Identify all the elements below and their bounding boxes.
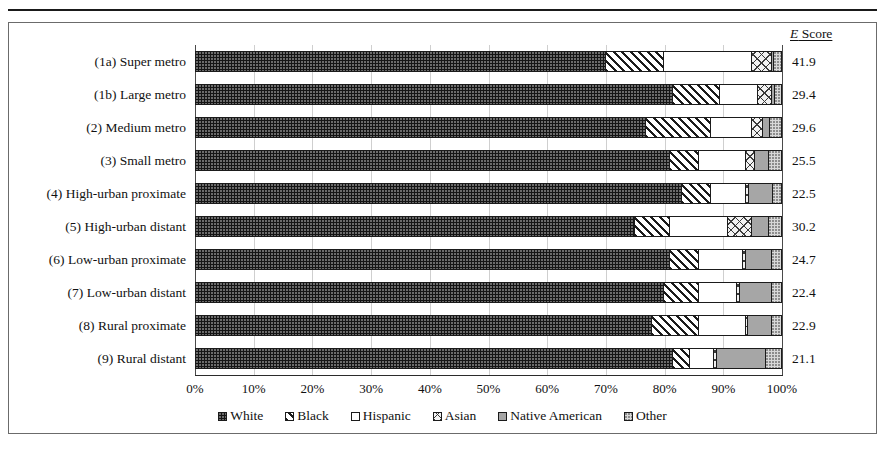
bar-segment-black[interactable] (682, 184, 711, 203)
category-label: (1b) Large metro (0, 87, 186, 103)
bar-segment-hispanic[interactable] (664, 52, 752, 71)
stacked-bar[interactable] (195, 282, 782, 303)
bar-segment-white[interactable] (196, 316, 652, 335)
bar-segment-native-american[interactable] (717, 349, 767, 368)
bar-segment-hispanic[interactable] (670, 217, 729, 236)
bar-segment-black[interactable] (635, 217, 670, 236)
x-tick-label: 30% (341, 381, 401, 397)
legend-item-black[interactable]: Black (285, 408, 329, 424)
bar-row (195, 276, 782, 309)
bar-segment-black[interactable] (646, 118, 710, 137)
bar-segment-other[interactable] (774, 52, 781, 71)
x-tick-label: 100% (752, 381, 812, 397)
bar-segment-other[interactable] (772, 316, 781, 335)
bar-segment-black[interactable] (664, 283, 699, 302)
legend-item-hispanic[interactable]: Hispanic (351, 408, 411, 424)
bar-segment-other[interactable] (769, 217, 781, 236)
bar-segment-other[interactable] (769, 151, 781, 170)
bar-segment-hispanic[interactable] (699, 316, 746, 335)
escore-value: 22.9 (792, 318, 852, 334)
bar-segment-white[interactable] (196, 217, 635, 236)
category-label: (1a) Super metro (0, 54, 186, 70)
plot-right-border (782, 45, 783, 375)
bar-segment-other[interactable] (772, 250, 781, 269)
bar-segment-hispanic[interactable] (720, 85, 758, 104)
bar-segment-black[interactable] (606, 52, 665, 71)
escore-value: 29.4 (792, 87, 852, 103)
legend-item-asian[interactable]: Asian (433, 408, 477, 424)
bar-segment-native-american[interactable] (746, 250, 772, 269)
bar-segment-white[interactable] (196, 151, 670, 170)
legend-item-other[interactable]: Other (624, 408, 667, 424)
bar-segment-black[interactable] (652, 316, 699, 335)
category-label: (2) Medium metro (0, 120, 186, 136)
bar-segment-other[interactable] (773, 184, 781, 203)
bar-segment-asian[interactable] (746, 151, 755, 170)
bar-segment-other[interactable] (770, 118, 781, 137)
bar-segment-asian[interactable] (752, 52, 772, 71)
bar-segment-white[interactable] (196, 184, 682, 203)
legend-label: Native American (510, 408, 602, 424)
category-label: (9) Rural distant (0, 351, 186, 367)
bar-segment-white[interactable] (196, 283, 664, 302)
bar-segment-hispanic[interactable] (711, 184, 746, 203)
escore-value: 22.4 (792, 285, 852, 301)
stacked-bar[interactable] (195, 84, 782, 105)
bar-segment-hispanic[interactable] (699, 151, 746, 170)
bar-segment-native-american[interactable] (740, 283, 772, 302)
escore-value: 30.2 (792, 219, 852, 235)
chart-legend: WhiteBlackHispanicAsianNative AmericanOt… (8, 408, 877, 424)
legend-label: Other (636, 408, 667, 424)
x-tick-label: 60% (517, 381, 577, 397)
bar-segment-white[interactable] (196, 250, 670, 269)
bar-segment-asian[interactable] (758, 85, 773, 104)
stacked-bar[interactable] (195, 216, 782, 237)
legend-swatch-icon (624, 412, 633, 421)
bar-segment-hispanic[interactable] (690, 349, 713, 368)
bar-segment-white[interactable] (196, 349, 673, 368)
legend-item-white[interactable]: White (218, 408, 263, 424)
bar-segment-native-american[interactable] (748, 316, 771, 335)
x-tick-label: 10% (224, 381, 284, 397)
bar-segment-black[interactable] (670, 250, 699, 269)
bar-row (195, 210, 782, 243)
stacked-bar[interactable] (195, 183, 782, 204)
bar-segment-other[interactable] (775, 85, 781, 104)
escore-header-word: Score (798, 26, 832, 41)
stacked-bar[interactable] (195, 315, 782, 336)
bar-segment-white[interactable] (196, 118, 646, 137)
stacked-bar[interactable] (195, 117, 782, 138)
stacked-bar[interactable] (195, 150, 782, 171)
legend-swatch-icon (285, 412, 294, 421)
x-axis-line (195, 375, 783, 376)
bar-segment-hispanic[interactable] (711, 118, 752, 137)
stacked-bar[interactable] (195, 249, 782, 270)
legend-label: Hispanic (363, 408, 411, 424)
bar-segment-native-american[interactable] (763, 118, 770, 137)
legend-swatch-icon (498, 412, 507, 421)
bar-segment-native-american[interactable] (749, 184, 772, 203)
bar-segment-native-american[interactable] (755, 151, 770, 170)
bar-segment-black[interactable] (673, 349, 691, 368)
bar-segment-native-american[interactable] (752, 217, 770, 236)
legend-item-native-american[interactable]: Native American (498, 408, 602, 424)
legend-label: White (230, 408, 263, 424)
bar-segment-asian[interactable] (752, 118, 764, 137)
stacked-bar[interactable] (195, 51, 782, 72)
legend-swatch-icon (218, 412, 227, 421)
header-rule (8, 9, 877, 11)
bar-segment-black[interactable] (670, 151, 699, 170)
bar-segment-asian[interactable] (728, 217, 751, 236)
x-tick-label: 0% (165, 381, 225, 397)
bar-segment-white[interactable] (196, 52, 606, 71)
bar-segment-hispanic[interactable] (699, 250, 743, 269)
escore-value: 25.5 (792, 153, 852, 169)
bar-segment-black[interactable] (673, 85, 720, 104)
bar-segment-hispanic[interactable] (699, 283, 737, 302)
stacked-bar[interactable] (195, 348, 782, 369)
bar-segment-other[interactable] (766, 349, 781, 368)
x-tick-label: 40% (400, 381, 460, 397)
bar-segment-other[interactable] (772, 283, 781, 302)
legend-label: Asian (445, 408, 477, 424)
bar-segment-white[interactable] (196, 85, 673, 104)
